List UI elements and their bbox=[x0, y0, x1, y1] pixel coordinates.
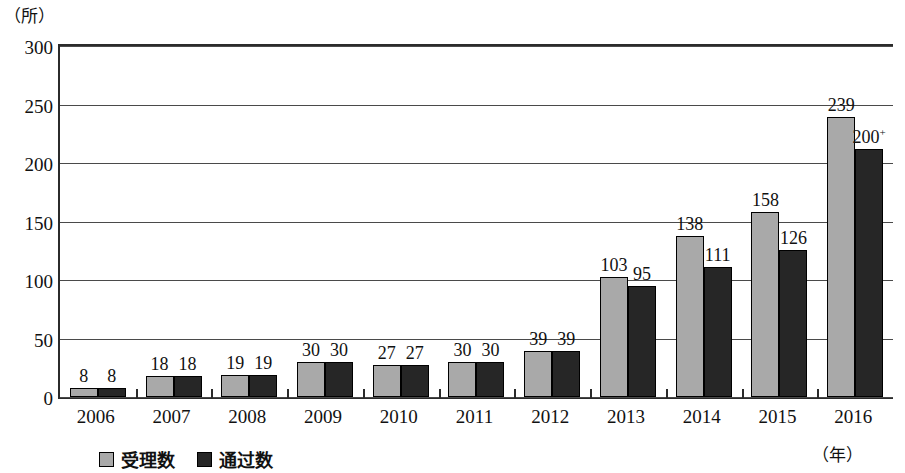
x-axis-tick bbox=[514, 389, 516, 398]
bar-value-label: 18 bbox=[179, 355, 197, 373]
bar-passed: 95 bbox=[628, 46, 656, 397]
bar-passed: 19 bbox=[249, 46, 277, 397]
bar-value-label: 126 bbox=[780, 229, 807, 247]
bar-fill bbox=[174, 376, 202, 397]
x-axis-category-label: 2012 bbox=[531, 406, 569, 428]
bar-fill bbox=[373, 365, 401, 397]
bar-group: 88 bbox=[60, 46, 136, 397]
bar-value-label: 95 bbox=[633, 265, 651, 283]
bar-value-label: 30 bbox=[453, 341, 471, 359]
x-axis-category-label: 2007 bbox=[153, 406, 191, 428]
bar-fill bbox=[827, 117, 855, 397]
y-axis-tick-label: 300 bbox=[25, 38, 54, 57]
x-axis-tick bbox=[590, 389, 592, 398]
bar-accepted: 30 bbox=[448, 46, 476, 397]
x-axis-tick bbox=[363, 389, 365, 398]
bar-passed: 27 bbox=[401, 46, 429, 397]
bar-passed: 126 bbox=[779, 46, 807, 397]
bar-value-label: 18 bbox=[151, 355, 169, 373]
bar-fill bbox=[325, 362, 353, 397]
bar-fill bbox=[98, 388, 126, 397]
bar-value-label: 30 bbox=[330, 341, 348, 359]
bar-fill bbox=[552, 351, 580, 397]
bar-fill bbox=[448, 362, 476, 397]
x-axis-tick bbox=[742, 389, 744, 398]
y-axis-tick-label: 50 bbox=[34, 330, 53, 349]
legend-item[interactable]: 通过数 bbox=[197, 446, 273, 472]
bar-fill bbox=[401, 365, 429, 397]
bar-accepted: 103 bbox=[600, 46, 628, 397]
bar-fill bbox=[676, 236, 704, 397]
legend-item[interactable]: 受理数 bbox=[99, 446, 175, 472]
x-axis-tick bbox=[439, 389, 441, 398]
bar-group: 158126 bbox=[742, 46, 818, 397]
plot-area: 050100150200250300 881818191930302727303… bbox=[58, 44, 893, 399]
bar-fill bbox=[628, 286, 656, 397]
bar-value-label: 239 bbox=[828, 96, 855, 114]
x-axis-category-label: 2015 bbox=[758, 406, 796, 428]
bar-fill bbox=[600, 277, 628, 398]
chart-legend: 受理数通过数 bbox=[99, 446, 273, 472]
x-axis-tick bbox=[817, 389, 819, 398]
bar-accepted: 138 bbox=[676, 46, 704, 397]
bar-value-label: 103 bbox=[600, 256, 627, 274]
bar-fill bbox=[146, 376, 174, 397]
y-axis-tick-label: 150 bbox=[25, 213, 54, 232]
legend-label: 受理数 bbox=[121, 446, 175, 472]
x-axis-tick bbox=[666, 389, 668, 398]
bar-fill bbox=[476, 362, 504, 397]
bar-passed: 18 bbox=[174, 46, 202, 397]
bar-fill bbox=[524, 351, 552, 397]
bar-passed: 200+ bbox=[855, 46, 883, 397]
bar-group: 3030 bbox=[287, 46, 363, 397]
bar-chart: （所） 050100150200250300 88181819193030272… bbox=[0, 0, 905, 473]
y-axis-tick-label: 100 bbox=[25, 272, 54, 291]
bar-fill bbox=[249, 375, 277, 397]
x-axis-category-label: 2010 bbox=[380, 406, 418, 428]
bar-fill bbox=[221, 375, 249, 397]
bar-value-label: 39 bbox=[529, 330, 547, 348]
bar-passed: 8 bbox=[98, 46, 126, 397]
bar-value-label: 158 bbox=[752, 191, 779, 209]
x-axis-tick bbox=[136, 389, 138, 398]
bar-accepted: 239 bbox=[827, 46, 855, 397]
bar-group: 138111 bbox=[666, 46, 742, 397]
y-axis-tick-label: 200 bbox=[25, 155, 54, 174]
bar-value-label: 39 bbox=[557, 330, 575, 348]
x-axis-category-label: 2008 bbox=[228, 406, 266, 428]
x-axis-category-label: 2009 bbox=[304, 406, 342, 428]
bar-value-label: 138 bbox=[676, 215, 703, 233]
x-axis-category-label: 2014 bbox=[683, 406, 721, 428]
bar-accepted: 8 bbox=[70, 46, 98, 397]
bar-accepted: 27 bbox=[373, 46, 401, 397]
bar-group: 3939 bbox=[514, 46, 590, 397]
bar-group: 2727 bbox=[363, 46, 439, 397]
bar-value-label: 8 bbox=[107, 367, 116, 385]
bar-passed: 30 bbox=[476, 46, 504, 397]
bar-accepted: 39 bbox=[524, 46, 552, 397]
y-axis-tick-label: 250 bbox=[25, 96, 54, 115]
bar-value-label: 200+ bbox=[853, 128, 886, 146]
y-axis-tick-label: 0 bbox=[44, 389, 54, 408]
x-axis-tick bbox=[211, 389, 213, 398]
bar-fill bbox=[70, 388, 98, 397]
legend-swatch-icon bbox=[99, 452, 114, 467]
x-axis-tick bbox=[287, 389, 289, 398]
gridline: 0 bbox=[60, 397, 893, 398]
bar-accepted: 158 bbox=[751, 46, 779, 397]
bar-fill bbox=[779, 250, 807, 397]
bar-fill bbox=[751, 212, 779, 397]
bar-group: 239200+ bbox=[817, 46, 893, 397]
bar-passed: 30 bbox=[325, 46, 353, 397]
bar-value-label: 19 bbox=[254, 354, 272, 372]
y-axis-unit-label: （所） bbox=[4, 2, 55, 27]
bar-group: 10395 bbox=[590, 46, 666, 397]
bar-group: 1919 bbox=[211, 46, 287, 397]
bar-passed: 111 bbox=[704, 46, 732, 397]
x-axis-category-label: 2016 bbox=[834, 406, 872, 428]
bar-accepted: 18 bbox=[146, 46, 174, 397]
bar-value-label: 27 bbox=[406, 344, 424, 362]
bar-value-label: 8 bbox=[79, 367, 88, 385]
legend-label: 通过数 bbox=[219, 446, 273, 472]
x-axis-category-label: 2011 bbox=[456, 406, 493, 428]
